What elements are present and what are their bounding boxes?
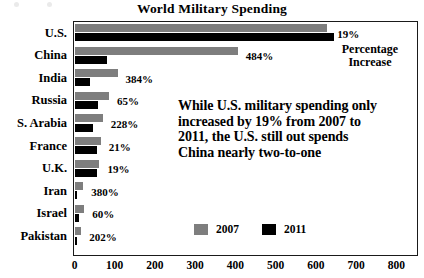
x-axis: 0100200300400500600700800 xyxy=(73,257,418,277)
category-axis-labels: U.S.ChinaIndiaRussiaS. ArabiaFranceU.K.I… xyxy=(0,21,71,256)
bar-2007-iran xyxy=(75,182,84,190)
bar-value-label: 228% xyxy=(111,119,139,130)
bar-value-label: 21% xyxy=(109,142,131,153)
category-label: France xyxy=(30,140,67,153)
bar-2011-israel xyxy=(75,214,79,222)
legend-swatch-2011 xyxy=(262,224,276,235)
chart-annotation-text: While U.S. military spending only increa… xyxy=(178,98,378,161)
category-label: Pakistan xyxy=(20,230,67,243)
bar-value-label: 202% xyxy=(89,232,117,243)
legend-item-2011: 2011 xyxy=(262,224,306,236)
category-label: China xyxy=(34,49,67,62)
bar-value-label: 384% xyxy=(126,74,154,85)
bar-2007-china xyxy=(75,47,238,55)
x-tick-label: 200 xyxy=(146,260,163,272)
legend-item-2007: 2007 xyxy=(194,224,239,236)
bar-2011-sarabia xyxy=(75,124,94,132)
bar-2011-russia xyxy=(75,101,98,109)
chart-root: World Military Spending U.S.ChinaIndiaRu… xyxy=(0,0,424,278)
chart-title: World Military Spending xyxy=(0,1,424,17)
bar-2007-pakistan xyxy=(75,227,82,235)
bar-value-label: 19% xyxy=(107,164,129,175)
x-tick-label: 100 xyxy=(106,260,123,272)
bar-2011-france xyxy=(75,146,98,154)
bar-2011-iran xyxy=(75,191,77,199)
bar-2007-russia xyxy=(75,92,110,100)
bar-value-label: 380% xyxy=(91,187,119,198)
bar-2011-pakistan xyxy=(75,237,77,245)
x-tick-label: 0 xyxy=(72,260,78,272)
category-label: S. Arabia xyxy=(17,117,67,130)
x-tick-label: 500 xyxy=(267,260,284,272)
bar-2011-uk xyxy=(75,169,98,177)
bar-2011-us xyxy=(75,33,335,41)
bar-2007-israel xyxy=(75,205,85,213)
x-tick-label: 800 xyxy=(388,260,405,272)
category-label: India xyxy=(39,72,68,85)
bar-value-label: 19% xyxy=(337,29,359,40)
category-label: Iran xyxy=(43,185,67,198)
x-tick-label: 300 xyxy=(187,260,204,272)
bar-2007-sarabia xyxy=(75,114,103,122)
bar-2007-uk xyxy=(75,160,100,168)
category-label: Israel xyxy=(36,207,67,220)
x-tick-label: 700 xyxy=(348,260,365,272)
bar-value-label: 65% xyxy=(117,96,139,107)
category-label: U.K. xyxy=(42,162,67,175)
bar-2011-china xyxy=(75,56,108,64)
bar-2007-india xyxy=(75,69,118,77)
category-label: Russia xyxy=(32,94,67,107)
bar-value-label: 60% xyxy=(92,209,114,220)
percentage-increase-callout: Percentage Increase xyxy=(322,43,418,70)
x-tick-label: 400 xyxy=(227,260,244,272)
bar-2007-france xyxy=(75,137,101,145)
percentage-increase-line1: Percentage xyxy=(322,43,418,56)
bar-2007-us xyxy=(75,24,328,32)
category-label: U.S. xyxy=(45,27,67,40)
bar-2011-india xyxy=(75,78,90,86)
percentage-increase-line2: Increase xyxy=(322,56,418,69)
legend-swatch-2007 xyxy=(194,224,208,235)
legend-label-2011: 2011 xyxy=(284,224,306,236)
x-tick-label: 600 xyxy=(307,260,324,272)
bar-value-label: 484% xyxy=(246,51,274,62)
legend-label-2007: 2007 xyxy=(216,224,239,236)
